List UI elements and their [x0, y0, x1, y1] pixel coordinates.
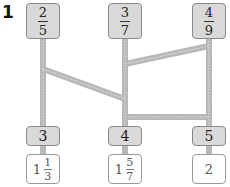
denominator: 7 [124, 171, 135, 182]
multiplier-3: 5 [192, 126, 226, 146]
top-fraction-1: 25 [26, 3, 60, 39]
denominator: 3 [42, 171, 53, 182]
top-fraction-3: 49 [192, 3, 226, 39]
answer-box-1[interactable]: 1 13 [26, 154, 60, 184]
whole-part: 1 [33, 162, 41, 177]
fraction-bar [204, 21, 214, 22]
numerator: 5 [124, 157, 135, 168]
answer-box-2[interactable]: 1 57 [108, 154, 142, 184]
multiplier-1: 3 [26, 126, 60, 146]
denominator: 5 [37, 24, 49, 37]
answer-box-3[interactable]: 2 [192, 154, 226, 184]
whole-part: 2 [205, 162, 213, 177]
numerator: 3 [119, 6, 131, 19]
denominator: 9 [203, 24, 215, 37]
fraction-bar [38, 21, 48, 22]
numerator: 1 [42, 157, 53, 168]
denominator: 7 [119, 24, 131, 37]
numerator: 2 [37, 6, 49, 19]
numerator: 4 [203, 6, 215, 19]
fraction-bar [120, 21, 130, 22]
whole-part: 1 [115, 162, 123, 177]
multiplier-2: 4 [108, 126, 142, 146]
top-fraction-2: 37 [108, 3, 142, 39]
